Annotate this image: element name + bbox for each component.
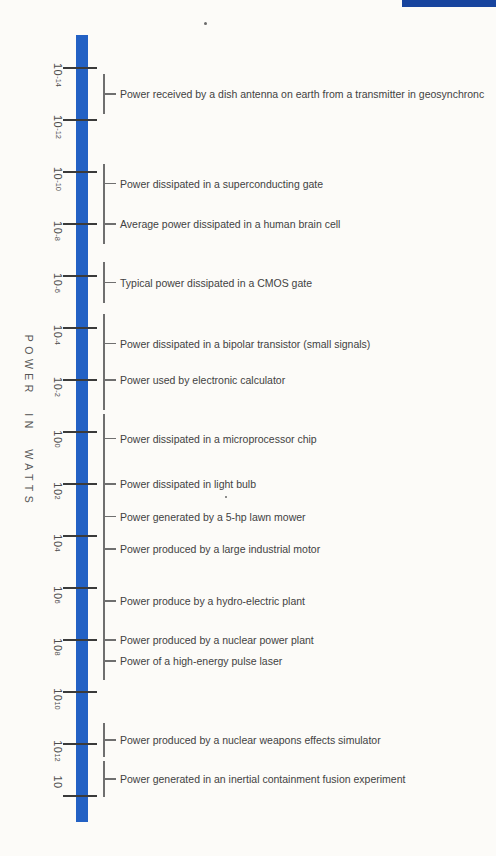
annotation-label: Power dissipated in a bipolar transistor…: [120, 337, 370, 351]
annotation-label: Power produced by a nuclear power plant: [120, 633, 314, 647]
annotation-dash: [103, 548, 116, 550]
annotation-dash: [103, 778, 116, 780]
scan-speck: [204, 22, 207, 25]
annotation-dash: [103, 516, 116, 518]
power-scale-bar: [76, 35, 88, 822]
annotation-label: Power dissipated in a microprocessor chi…: [120, 432, 317, 446]
annotation-label: Power produced by a nuclear weapons effe…: [120, 733, 381, 747]
tick-exponent: -2: [53, 390, 62, 397]
tick-exponent: -12: [53, 128, 62, 139]
tick-exponent: 8: [53, 652, 62, 656]
annotation-dash: [103, 739, 116, 741]
annotation-dash: [103, 282, 116, 284]
tick-label-text: 102: [52, 482, 64, 499]
annotation-label: Average power dissipated in a human brai…: [120, 217, 340, 231]
annotation-label: Power dissipated in light bulb: [120, 477, 256, 491]
annotation-dash: [103, 183, 116, 185]
tick-label-text: 10-6: [52, 273, 64, 293]
tick-label: 10: [46, 747, 70, 817]
annotation-dash: [103, 660, 116, 662]
annotation-dash: [103, 93, 116, 95]
page-corner-bar: [402, 0, 496, 7]
tick-label-text: 10-4: [52, 325, 64, 345]
tick-label-text: 104: [52, 534, 64, 551]
annotation-dash: [103, 379, 116, 381]
annotation-label: Power dissipated in a superconducting ga…: [120, 177, 323, 191]
tick-label-text: 106: [52, 586, 64, 603]
tick-label-text: 10-2: [52, 377, 64, 397]
tick-label-text: 10-14: [52, 63, 64, 87]
tick-label-text: 108: [52, 638, 64, 655]
annotation-dash: [103, 639, 116, 641]
annotation-dash: [103, 343, 116, 345]
tick-exponent: 10: [53, 701, 62, 709]
tick-label-text: 100: [52, 430, 64, 447]
annotation-label: Power received by a dish antenna on eart…: [120, 87, 484, 101]
annotation-label: Power produce by a hydro-electric plant: [120, 594, 305, 608]
tick-label-text: 10-10: [52, 167, 64, 191]
tick-label-text: 10-12: [52, 115, 64, 139]
annotation-label: Power generated in an inertial containme…: [120, 772, 405, 786]
tick-label-text: 10-8: [52, 221, 64, 241]
annotation-label: Power of a high-energy pulse laser: [120, 654, 282, 668]
tick-exponent: 0: [53, 444, 62, 448]
annotation-dash: [103, 483, 116, 485]
tick-label-text: 1010: [52, 688, 64, 710]
tick-exponent: 4: [53, 548, 62, 552]
annotation-dash: [103, 223, 116, 225]
tick-exponent: -8: [53, 234, 62, 241]
tick-exponent: -14: [53, 76, 62, 87]
scanned-figure-page: POWER IN WATTS 10-1410-1210-1010-810-610…: [0, 0, 496, 856]
axis-title: POWER IN WATTS: [17, 342, 41, 500]
tick-exponent: -10: [53, 180, 62, 191]
tick-exponent: 6: [53, 600, 62, 604]
annotation-label: Power generated by a 5-hp lawn mower: [120, 510, 306, 524]
annotation-dash: [103, 600, 116, 602]
axis-title-text: POWER IN WATTS: [23, 335, 35, 508]
annotation-label: Power used by electronic calculator: [120, 373, 285, 387]
tick-exponent: -6: [53, 286, 62, 293]
annotation-dash: [103, 438, 116, 440]
tick-label-text: 10: [52, 775, 64, 788]
tick-exponent: 2: [53, 496, 62, 500]
scan-speck: [225, 496, 227, 498]
annotation-label: Typical power dissipated in a CMOS gate: [120, 276, 312, 290]
tick-exponent: -4: [53, 338, 62, 345]
annotation-label: Power produced by a large industrial mot…: [120, 542, 320, 556]
